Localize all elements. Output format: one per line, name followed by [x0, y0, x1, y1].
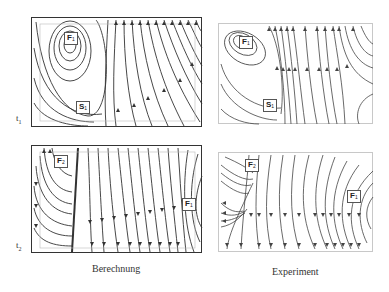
label-focus-f1: F1 [64, 32, 78, 45]
caption-berechnung: Berechnung [92, 263, 140, 274]
caption-experiment: Experiment [272, 266, 319, 277]
label-sub: 1 [190, 202, 193, 208]
row-label-sub: 1 [19, 119, 22, 125]
row-label-t2: t2 [16, 240, 22, 252]
label-focus-f2: F2 [245, 159, 259, 172]
label-saddle-s1: S1 [263, 99, 277, 112]
streamline-plot-exp-t2 [219, 153, 374, 253]
label-sub: 1 [247, 40, 250, 46]
panel-calc-t1: F1 S1 [31, 17, 202, 127]
label-focus-f1: F1 [347, 190, 361, 203]
label-focus-f1: F1 [182, 198, 196, 211]
panel-exp-t2: F2 F1 [218, 152, 373, 252]
label-sub: 1 [271, 103, 274, 109]
row-label-sub: 2 [19, 246, 22, 252]
label-focus-f2: F2 [54, 155, 68, 168]
label-sub: 2 [62, 159, 65, 165]
label-focus-f1: F1 [239, 36, 253, 49]
streamline-plot-calc-t1 [32, 18, 203, 128]
row-label-t1: t1 [16, 113, 22, 125]
label-sub: 2 [253, 163, 256, 169]
label-saddle-s1: S1 [76, 101, 90, 114]
panel-exp-t1: F1 S1 [218, 23, 373, 124]
label-sub: 1 [355, 194, 358, 200]
label-sub: 1 [72, 36, 75, 42]
label-sub: 1 [84, 105, 87, 111]
panel-calc-t2: F2 F1 [31, 145, 202, 253]
